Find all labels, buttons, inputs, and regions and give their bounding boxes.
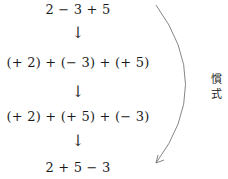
curved-arrow-icon bbox=[0, 0, 228, 179]
side-note-line-2: 式 bbox=[211, 88, 222, 101]
side-note-line-1: 慣 bbox=[211, 73, 222, 86]
